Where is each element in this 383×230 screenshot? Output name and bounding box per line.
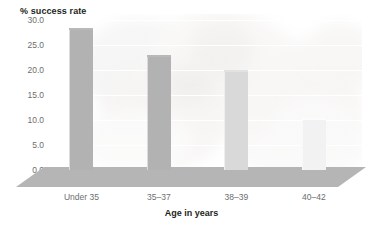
y-axis-tick-label: 10.0 <box>27 115 44 125</box>
bars-layer <box>52 20 362 170</box>
y-axis-tick-label: 5.0 <box>32 140 44 150</box>
x-axis-tick-labels: Under 3535–3738–3940–42 <box>0 192 383 206</box>
bar-face <box>147 55 171 170</box>
bar-face <box>302 118 326 171</box>
bar[interactable] <box>69 28 93 171</box>
x-axis-tick-label: Under 35 <box>64 192 99 202</box>
x-axis-tick-label: 40–42 <box>302 192 326 202</box>
bar-chart: % success rate 30.025.020.015.010.05.00.… <box>0 0 383 230</box>
bar[interactable] <box>302 118 326 171</box>
x-axis-title: Age in years <box>0 208 383 218</box>
bar-top <box>69 28 93 30</box>
y-axis-tick-label: 0.0 <box>32 165 44 175</box>
x-axis-tick-label: 35–37 <box>147 192 171 202</box>
bar-top <box>147 55 171 57</box>
bar-top <box>224 70 248 72</box>
y-axis-tick-label: 25.0 <box>27 40 44 50</box>
bar-face <box>224 70 248 170</box>
bar[interactable] <box>147 55 171 170</box>
bar-top <box>302 118 326 120</box>
bar[interactable] <box>224 70 248 170</box>
gridline <box>52 170 362 171</box>
y-axis-tick-label: 15.0 <box>27 90 44 100</box>
x-axis-tick-label: 38–39 <box>225 192 249 202</box>
y-axis-tick-label: 20.0 <box>27 65 44 75</box>
y-axis-tick-labels: 30.025.020.015.010.05.00.0 <box>0 20 48 170</box>
y-axis-tick-label: 30.0 <box>27 15 44 25</box>
bar-face <box>69 28 93 171</box>
